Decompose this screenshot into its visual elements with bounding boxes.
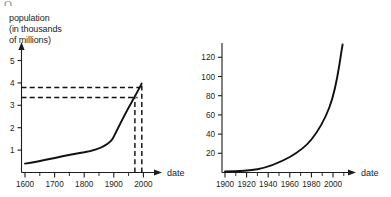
fertilizer-x-tick-label: 2000 — [324, 180, 343, 189]
population-y-tick-label: 3 — [10, 101, 15, 110]
population-x-axis-arrowhead — [154, 169, 162, 175]
fertilizer-y-tick-label: 40 — [206, 130, 216, 139]
fertilizer-chart-panel: fertilizer used every day in millions of… — [195, 0, 391, 197]
population-y-axis-arrowhead — [18, 42, 24, 50]
fertilizer-y-tick-label: 20 — [206, 149, 216, 158]
fertilizer-y-ticks — [218, 57, 222, 153]
population-x-tick-label: 1600 — [16, 180, 35, 189]
fertilizer-x-axis-arrowhead — [348, 169, 356, 175]
fertilizer-y-tick-label: 100 — [201, 73, 215, 82]
population-curve — [25, 84, 142, 164]
population-y-tick-label: 1 — [10, 146, 15, 155]
fertilizer-x-tick-label: 1980 — [302, 180, 321, 189]
population-y-tick-label: 4 — [10, 79, 15, 88]
population-y-tick-label: 2 — [10, 124, 15, 133]
fertilizer-curve — [225, 45, 343, 172]
fertilizer-y-tick-label: 60 — [206, 111, 216, 120]
population-chart-panel: population (in thousands of millions) — [0, 0, 195, 197]
fertilizer-plot-area: 20 40 60 80 100 120 — [195, 0, 391, 197]
fertilizer-x-tick-label: 1920 — [237, 180, 256, 189]
fertilizer-x-tick-label: 1940 — [259, 180, 278, 189]
population-plot-area: 1 2 3 4 5 — [0, 0, 195, 197]
population-x-tick-labels: 1600 1700 1800 1900 2000 — [16, 180, 153, 189]
population-x-tick-label: 1700 — [45, 180, 64, 189]
population-y-tick-labels: 1 2 3 4 5 — [10, 57, 15, 156]
population-x-tick-label: 2000 — [134, 180, 153, 189]
fertilizer-y-tick-label: 80 — [206, 92, 216, 101]
population-x-major-ticks — [25, 173, 143, 178]
population-x-tick-label: 1900 — [105, 180, 124, 189]
fertilizer-x-axis-name: date — [361, 168, 379, 178]
population-y-ticks — [18, 61, 22, 151]
fertilizer-y-tick-label: 120 — [201, 53, 215, 62]
fertilizer-y-tick-labels: 20 40 60 80 100 120 — [201, 53, 215, 158]
population-x-tick-label: 1800 — [75, 180, 94, 189]
figure-root: Q population (in thousands of millions) — [0, 0, 391, 197]
population-x-axis-name: date — [167, 168, 185, 178]
fertilizer-x-tick-label: 1900 — [216, 180, 235, 189]
fertilizer-x-tick-label: 1960 — [281, 180, 300, 189]
population-y-tick-label: 5 — [10, 57, 15, 66]
fertilizer-x-tick-labels: 1900 1920 1940 1960 1980 2000 — [216, 180, 343, 189]
